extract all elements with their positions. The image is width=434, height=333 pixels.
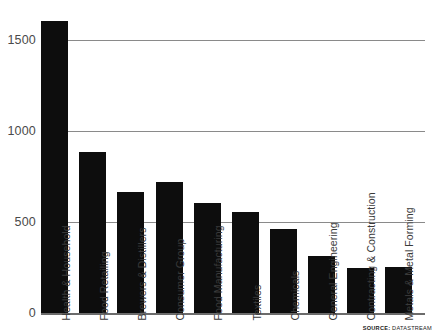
bar-category-label: Brewers & Distillers (136, 227, 147, 320)
y-axis-tick-label: 1500 (0, 34, 36, 47)
bar-category-label: Chemicals (289, 271, 300, 321)
source-note: SOURCE: DATASTREAM (363, 325, 432, 331)
y-axis-tick-label: 0 (0, 307, 36, 320)
source-label: SOURCE: (363, 325, 391, 331)
bar-category-label: Textiles (251, 285, 262, 321)
bar-category-label: Health & Household (60, 225, 71, 320)
y-axis-tick-label: 500 (0, 216, 36, 229)
bar-category-label: Contracting & Construction (366, 192, 377, 320)
bar-category-label: General Engineering (327, 222, 338, 320)
bar-category-label: Consumer Group (175, 239, 186, 321)
source-value: DATASTREAM (392, 325, 432, 331)
y-axis-tick-label: 1000 (0, 125, 36, 138)
gridline (41, 40, 425, 41)
gridline (41, 131, 425, 132)
bar-category-label: Food Retailing (98, 251, 109, 320)
bar-chart: 050010001500 Health & HouseholdFood Reta… (0, 0, 434, 333)
bar-category-label: Metals & Metal Forming (404, 207, 415, 320)
bar-category-label: Food Manufacturing (213, 225, 224, 320)
